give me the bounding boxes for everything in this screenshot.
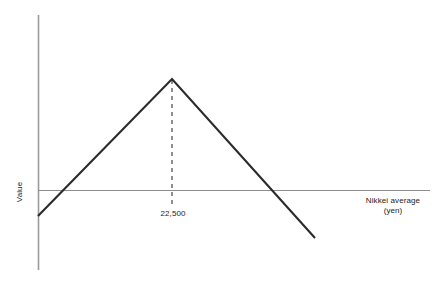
x-axis-label-unit: (yen): [384, 206, 403, 215]
strike-price-label: 22,500: [160, 209, 185, 219]
x-axis-label: Nikkei average (yen): [350, 196, 436, 215]
chart-plot-area: [0, 0, 442, 285]
x-axis-label-title: Nikkei average: [366, 196, 420, 205]
payoff-chart: Value 22,500 Nikkei average (yen): [0, 0, 442, 285]
y-axis-label: Value: [15, 182, 25, 202]
